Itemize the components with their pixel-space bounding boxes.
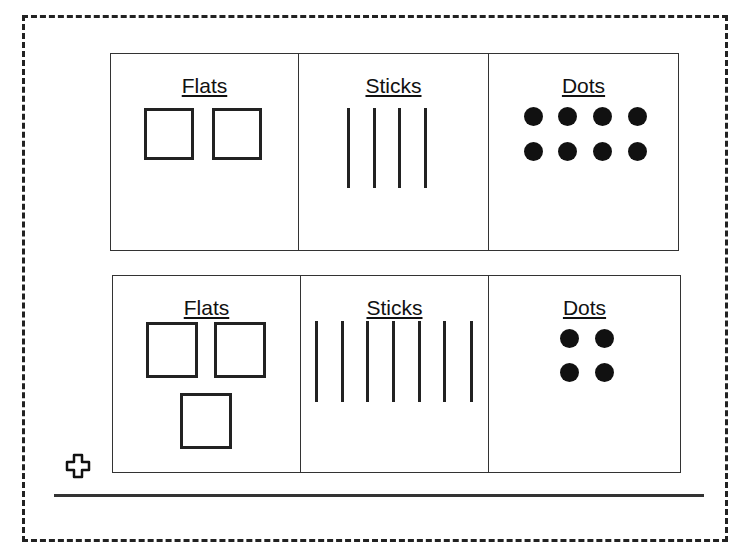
stick — [315, 321, 318, 402]
dots-label: Dots — [489, 74, 678, 98]
dot — [593, 107, 612, 126]
dot — [560, 363, 579, 382]
dot — [628, 142, 647, 161]
flat-square — [146, 322, 198, 378]
stick — [424, 108, 427, 188]
flat-square — [180, 393, 232, 449]
dot — [595, 363, 614, 382]
flats-cell: Flats — [113, 276, 300, 472]
place-value-table-2: Flats Sticks Dots — [112, 275, 681, 473]
answer-line — [54, 494, 704, 497]
dot — [595, 329, 614, 348]
dots-cell: Dots — [488, 54, 678, 250]
stick — [443, 321, 446, 402]
sticks-label: Sticks — [301, 296, 488, 320]
stick — [341, 321, 344, 402]
sticks-label: Sticks — [299, 74, 488, 98]
dot — [558, 142, 577, 161]
flats-label: Flats — [113, 296, 300, 320]
flats-label: Flats — [111, 74, 298, 98]
stick — [470, 321, 473, 402]
flat-square — [214, 322, 266, 378]
flat-square — [212, 108, 262, 160]
plus-outline-icon — [65, 453, 91, 483]
dots-label: Dots — [489, 296, 680, 320]
stick — [392, 321, 395, 402]
dot — [524, 107, 543, 126]
stick — [373, 108, 376, 188]
dots-cell: Dots — [488, 276, 680, 472]
stick — [398, 108, 401, 188]
stick — [418, 321, 421, 402]
sticks-cell: Sticks — [298, 54, 488, 250]
sticks-cell: Sticks — [300, 276, 488, 472]
stick — [366, 321, 369, 402]
dot — [560, 329, 579, 348]
place-value-table-1: Flats Sticks Dots — [110, 53, 679, 251]
dot — [558, 107, 577, 126]
dot — [593, 142, 612, 161]
flat-square — [144, 108, 194, 160]
dot — [524, 142, 543, 161]
flats-cell: Flats — [111, 54, 298, 250]
dot — [628, 107, 647, 126]
stick — [347, 108, 350, 188]
